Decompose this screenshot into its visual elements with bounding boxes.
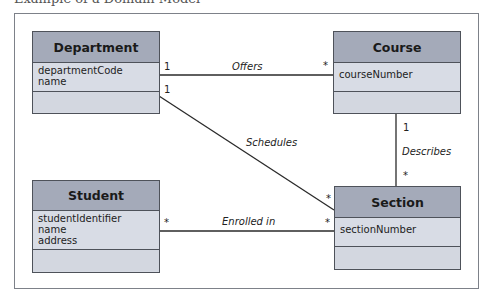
class-section-attributes: sectionNumber [335,218,460,247]
class-department-operations [33,92,159,112]
schedules-to-multiplicity: * [326,193,331,204]
class-course[interactable]: Course courseNumber [333,31,461,114]
schedules-from-multiplicity: 1 [164,84,170,95]
describes-from-multiplicity: 1 [403,122,409,133]
attribute: name [38,76,154,87]
offers-to-multiplicity: * [323,60,328,71]
enrolled-from-multiplicity: * [164,217,169,228]
offers-from-multiplicity: 1 [164,61,170,72]
enrolled-to-multiplicity: * [325,217,330,228]
class-section-operations [335,247,460,268]
class-student[interactable]: Student studentIdentifier name address [32,180,160,273]
describes-to-multiplicity: * [403,170,408,181]
attribute: address [38,235,154,246]
class-section-name: Section [335,187,460,218]
describes-label: Describes [402,146,451,157]
attribute: departmentCode [38,65,154,76]
class-student-name: Student [33,181,159,211]
attribute: sectionNumber [340,224,455,235]
attribute: name [38,224,154,235]
class-section[interactable]: Section sectionNumber [334,186,461,270]
enrolled-label: Enrolled in [222,216,275,227]
schedules-label: Schedules [246,137,297,148]
class-student-attributes: studentIdentifier name address [33,211,159,250]
schedules-line [159,96,334,210]
attribute: courseNumber [339,69,455,80]
class-department[interactable]: Department departmentCode name [32,31,160,114]
class-department-attributes: departmentCode name [33,63,159,92]
class-student-operations [33,250,159,271]
class-course-attributes: courseNumber [334,63,460,92]
offers-label: Offers [232,61,263,72]
class-course-operations [334,92,460,112]
class-department-name: Department [33,32,159,63]
attribute: studentIdentifier [38,213,154,224]
class-course-name: Course [334,32,460,63]
